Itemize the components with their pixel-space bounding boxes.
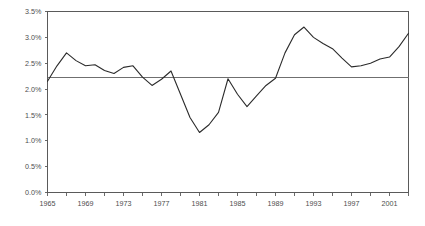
y-tick-label: 3.0% [25, 33, 42, 42]
x-tick-label: 1985 [230, 199, 246, 208]
y-tick-label: 1.5% [25, 111, 42, 120]
y-tick-label: 3.5% [25, 7, 42, 16]
y-tick-label: 0.5% [25, 162, 42, 171]
x-tick-label: 1965 [40, 199, 56, 208]
y-tick-label: 1.0% [25, 136, 42, 145]
x-tick-label: 1989 [268, 199, 284, 208]
x-tick-label: 1969 [78, 199, 94, 208]
x-axis-tick-labels: 1965196919731977198119851989199319972001 [40, 199, 398, 208]
x-tick-label: 1981 [192, 199, 208, 208]
y-tick-label: 0.0% [25, 188, 42, 197]
chart-canvas: 0.0%0.5%1.0%1.5%2.0%2.5%3.0%3.5% 1965196… [0, 0, 425, 226]
x-tick-label: 1973 [116, 199, 132, 208]
y-axis-tick-labels: 0.0%0.5%1.0%1.5%2.0%2.5%3.0%3.5% [25, 7, 42, 197]
y-tick-label: 2.0% [25, 85, 42, 94]
x-tick-label: 1977 [154, 199, 170, 208]
x-tick-label: 1997 [344, 199, 360, 208]
plot-frame [48, 12, 409, 193]
data-series-line [48, 27, 409, 132]
y-tick-label: 2.5% [25, 59, 42, 68]
x-tick-label: 1993 [306, 199, 322, 208]
line-chart: 0.0%0.5%1.0%1.5%2.0%2.5%3.0%3.5% 1965196… [0, 0, 425, 226]
x-tick-label: 2001 [382, 199, 398, 208]
